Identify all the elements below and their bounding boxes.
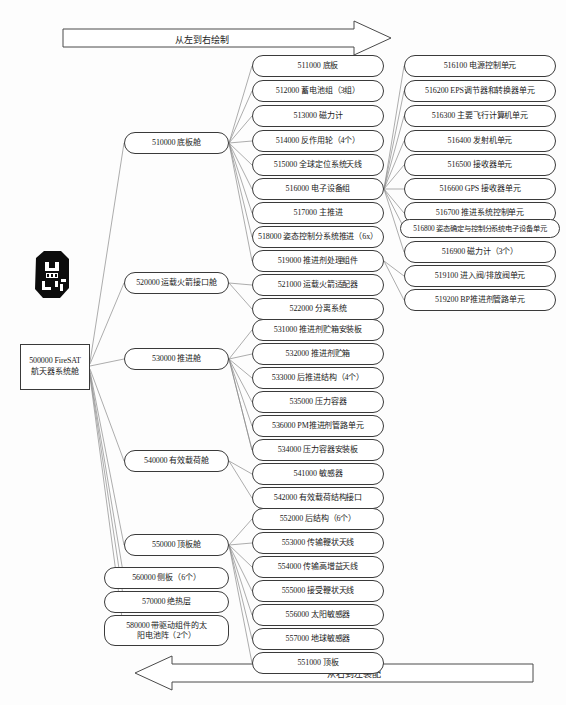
node-541000-label: 541000 敏感器 <box>293 470 342 478</box>
node-551000-label: 551000 顶板 <box>297 659 338 667</box>
node-580000-line2: 阳电池阵（2个） <box>126 631 207 641</box>
node-516800[interactable]: 516800 姿态确定与控制分系统电子设备单元 <box>400 219 560 238</box>
node-555000[interactable]: 555000 接受鞭状天线 <box>252 580 384 602</box>
node-553000[interactable]: 553000 传输鞭状天线 <box>252 532 384 554</box>
node-541000[interactable]: 541000 敏感器 <box>252 463 384 485</box>
node-532000-label: 532000 推进剂贮箱 <box>286 350 351 358</box>
node-516500[interactable]: 516500 接收器单元 <box>404 154 556 176</box>
node-500000-line2: 航天器系统舱 <box>29 367 81 378</box>
node-551000[interactable]: 551000 顶板 <box>252 652 384 674</box>
node-516100-label: 516100 电源控制单元 <box>444 62 517 70</box>
node-531000[interactable]: 531000 推进剂贮箱安装板 <box>252 319 384 341</box>
node-516400-label: 516400 发射机单元 <box>448 137 513 145</box>
node-518000-label: 518000 姿态控制分系统推进（6x） <box>258 233 378 241</box>
node-536000[interactable]: 536000 PM推进剂管路单元 <box>252 415 384 437</box>
node-512000-label: 512000 蓄电池组（3组） <box>276 87 361 95</box>
node-510000-label: 510000 底板舱 <box>152 139 201 147</box>
left-to-right-arrow-label: 从左到右绘制 <box>62 33 342 46</box>
node-557000[interactable]: 557000 地球敏感器 <box>252 628 384 650</box>
node-514000[interactable]: 514000 反作用轮（4个） <box>252 130 384 152</box>
node-519100-label: 519100 进入阀/排放阀单元 <box>435 272 526 280</box>
node-580000[interactable]: 580000 带驱动组件的太 阳电池阵（2个） <box>104 615 229 646</box>
node-542000[interactable]: 542000 有效载荷结构接口 <box>252 487 384 509</box>
node-531000-label: 531000 推进剂贮箱安装板 <box>274 326 363 334</box>
node-554000[interactable]: 554000 传输高增益天线 <box>252 556 384 578</box>
node-532000[interactable]: 532000 推进剂贮箱 <box>252 343 384 365</box>
node-516800-label: 516800 姿态确定与控制分系统电子设备单元 <box>413 225 546 233</box>
node-533000-label: 533000 后推进结构（4个） <box>272 374 364 382</box>
node-516200[interactable]: 516200 EPS调节器和转换器单元 <box>404 80 556 102</box>
node-500000[interactable]: 500000 FireSAT 航天器系统舱 <box>20 344 90 390</box>
node-556000-label: 556000 太阳敏感器 <box>286 611 351 619</box>
node-554000-label: 554000 传输高增益天线 <box>278 563 359 571</box>
product-breakdown-diagram: 从左到右绘制 从右到左装配 500000 FireSAT 航天器系统舱 <box>0 0 566 705</box>
node-534000[interactable]: 534000 压力容器安装板 <box>252 439 384 461</box>
node-516000-label: 516000 电子设备组 <box>286 185 351 193</box>
satellite-thumbnail <box>30 248 74 302</box>
node-535000-label: 535000 压力容器 <box>290 398 347 406</box>
node-519100[interactable]: 519100 进入阀/排放阀单元 <box>404 265 556 287</box>
node-570000[interactable]: 570000 绝热层 <box>104 591 229 613</box>
node-560000[interactable]: 560000 侧板（6个） <box>104 567 229 589</box>
node-557000-label: 557000 地球敏感器 <box>286 635 351 643</box>
node-516700-label: 516700 推进系统控制单元 <box>436 209 525 217</box>
node-515000[interactable]: 515000 全球定位系统天线 <box>252 154 384 176</box>
node-511000[interactable]: 511000 底板 <box>252 55 384 77</box>
node-521000[interactable]: 521000 运载火箭适配器 <box>252 274 384 296</box>
node-556000[interactable]: 556000 太阳敏感器 <box>252 604 384 626</box>
node-553000-label: 553000 传输鞭状天线 <box>282 539 355 547</box>
node-519200[interactable]: 519200 BP推进剂管路单元 <box>404 289 556 311</box>
node-530000[interactable]: 530000 推进舱 <box>124 348 229 370</box>
node-560000-label: 560000 侧板（6个） <box>132 574 201 582</box>
node-535000[interactable]: 535000 压力容器 <box>252 391 384 413</box>
node-516900-label: 516900 磁力计（3个） <box>442 248 519 256</box>
node-516300-label: 516300 主要飞行计算机单元 <box>432 112 528 120</box>
node-516500-label: 516500 接收器单元 <box>448 161 513 169</box>
node-519000[interactable]: 519000 推进剂处理组件 <box>252 250 384 272</box>
node-580000-line1: 580000 带驱动组件的太 <box>126 621 207 631</box>
node-513000[interactable]: 513000 磁力计 <box>252 105 384 127</box>
node-517000-label: 517000 主推进 <box>293 209 342 217</box>
node-516100[interactable]: 516100 电源控制单元 <box>404 55 556 77</box>
node-522000[interactable]: 522000 分离系统 <box>252 298 384 320</box>
node-500000-line1: 500000 FireSAT <box>29 356 81 367</box>
node-510000[interactable]: 510000 底板舱 <box>124 132 229 154</box>
node-517000[interactable]: 517000 主推进 <box>252 202 384 224</box>
node-512000[interactable]: 512000 蓄电池组（3组） <box>252 80 384 102</box>
node-516400[interactable]: 516400 发射机单元 <box>404 130 556 152</box>
node-530000-label: 530000 推进舱 <box>152 355 201 363</box>
node-550000-label: 550000 顶板舱 <box>152 541 201 549</box>
node-511000-label: 511000 底板 <box>298 62 339 70</box>
node-514000-label: 514000 反作用轮（4个） <box>276 137 361 145</box>
node-513000-label: 513000 磁力计 <box>293 112 342 120</box>
node-522000-label: 522000 分离系统 <box>290 305 347 313</box>
node-542000-label: 542000 有效载荷结构接口 <box>274 494 363 502</box>
node-552000-label: 552000 后结构（6个） <box>280 515 357 523</box>
node-521000-label: 521000 运载火箭适配器 <box>278 281 359 289</box>
node-533000[interactable]: 533000 后推进结构（4个） <box>252 367 384 389</box>
node-520000-label: 520000 运载火箭接口舱 <box>136 279 217 287</box>
node-519200-label: 519200 BP推进剂管路单元 <box>435 296 525 304</box>
node-515000-label: 515000 全球定位系统天线 <box>274 161 363 169</box>
node-516000[interactable]: 516000 电子设备组 <box>252 178 384 200</box>
node-518000[interactable]: 518000 姿态控制分系统推进（6x） <box>252 226 384 248</box>
node-540000-label: 540000 有效载荷舱 <box>144 457 209 465</box>
node-516900[interactable]: 516900 磁力计（3个） <box>404 241 556 263</box>
node-516200-label: 516200 EPS调节器和转换器单元 <box>425 87 535 95</box>
node-516600[interactable]: 516600 GPS 接收器单元 <box>404 178 556 200</box>
node-540000[interactable]: 540000 有效载荷舱 <box>124 450 229 472</box>
node-519000-label: 519000 推进剂处理组件 <box>278 257 359 265</box>
node-570000-label: 570000 绝热层 <box>142 598 191 606</box>
node-516300[interactable]: 516300 主要飞行计算机单元 <box>404 105 556 127</box>
node-516600-label: 516600 GPS 接收器单元 <box>439 185 520 193</box>
node-555000-label: 555000 接受鞭状天线 <box>282 587 355 595</box>
node-550000[interactable]: 550000 顶板舱 <box>124 534 229 556</box>
node-534000-label: 534000 压力容器安装板 <box>278 446 359 454</box>
node-520000[interactable]: 520000 运载火箭接口舱 <box>124 272 229 294</box>
node-552000[interactable]: 552000 后结构（6个） <box>252 508 384 530</box>
node-536000-label: 536000 PM推进剂管路单元 <box>272 422 364 430</box>
